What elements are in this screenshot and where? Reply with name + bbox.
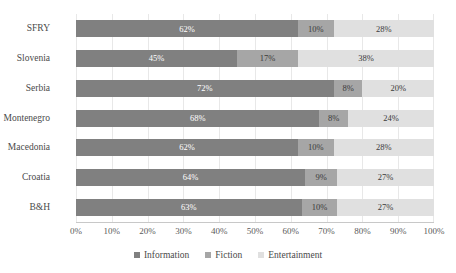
category-label: Macedonia xyxy=(0,139,50,156)
plot-area: SFRY62%10%28%Slovenia45%17%38%Serbia72%8… xyxy=(76,14,434,222)
bar-segment-information: 45% xyxy=(76,50,237,67)
bar-segment-entertainment: 27% xyxy=(337,199,434,216)
category-label: B&H xyxy=(0,199,50,216)
data-label: 10% xyxy=(308,25,324,34)
bar-segment-information: 63% xyxy=(76,199,302,216)
x-tick-label: 100% xyxy=(424,226,445,236)
data-label: 68% xyxy=(190,114,206,123)
bar-segment-information: 68% xyxy=(76,110,319,127)
data-label: 72% xyxy=(197,84,213,93)
bar-segment-information: 64% xyxy=(76,169,305,186)
bar-segment-entertainment: 28% xyxy=(334,139,434,156)
bar-segment-entertainment: 20% xyxy=(362,80,434,97)
bar-segment-information: 62% xyxy=(76,139,298,156)
data-label: 28% xyxy=(376,143,392,152)
x-axis-tick-labels: 0%10%20%30%40%50%60%70%80%90%100% xyxy=(76,226,434,240)
bar-segment-fiction: 10% xyxy=(298,139,334,156)
legend-item-fiction[interactable]: Fiction xyxy=(205,250,242,260)
category-label: Croatia xyxy=(0,169,50,186)
data-label: 8% xyxy=(328,114,339,123)
data-label: 27% xyxy=(378,173,394,182)
data-label: 45% xyxy=(149,54,165,63)
data-label: 63% xyxy=(181,203,197,212)
x-tick-label: 70% xyxy=(318,226,335,236)
data-label: 62% xyxy=(179,25,195,34)
legend-swatch-icon xyxy=(205,252,211,258)
data-label: 10% xyxy=(312,203,328,212)
bar-segment-fiction: 10% xyxy=(298,20,334,37)
legend-item-information[interactable]: Information xyxy=(134,250,189,260)
x-tick-label: 90% xyxy=(390,226,407,236)
category-label: SFRY xyxy=(0,20,50,37)
bar-segment-fiction: 17% xyxy=(237,50,298,67)
data-label: 27% xyxy=(378,203,394,212)
legend-label: Fiction xyxy=(215,250,242,260)
bar-segment-fiction: 9% xyxy=(305,169,337,186)
data-label: 9% xyxy=(316,173,327,182)
legend-label: Entertainment xyxy=(268,250,322,260)
bar-row: Montenegro68%8%24% xyxy=(76,110,434,127)
bar-segment-entertainment: 24% xyxy=(348,110,434,127)
bar-segment-information: 62% xyxy=(76,20,298,37)
x-tick-label: 20% xyxy=(139,226,156,236)
category-label: Slovenia xyxy=(0,50,50,67)
legend-swatch-icon xyxy=(134,252,140,258)
x-tick-label: 10% xyxy=(104,226,121,236)
data-label: 38% xyxy=(358,54,374,63)
legend-label: Information xyxy=(144,250,189,260)
bar-row: SFRY62%10%28% xyxy=(76,20,434,37)
x-axis-line xyxy=(76,222,434,223)
category-label: Montenegro xyxy=(0,110,50,127)
x-tick-label: 40% xyxy=(211,226,228,236)
category-label: Serbia xyxy=(0,80,50,97)
legend-item-entertainment[interactable]: Entertainment xyxy=(258,250,322,260)
x-tick-label: 80% xyxy=(354,226,371,236)
data-label: 28% xyxy=(376,25,392,34)
data-label: 8% xyxy=(342,84,353,93)
bar-row: B&H63%10%27% xyxy=(76,199,434,216)
legend-swatch-icon xyxy=(258,252,264,258)
data-label: 10% xyxy=(308,143,324,152)
bar-segment-entertainment: 27% xyxy=(337,169,434,186)
bar-segment-fiction: 8% xyxy=(319,110,348,127)
data-label: 62% xyxy=(179,143,195,152)
data-label: 24% xyxy=(383,114,399,123)
bar-segment-fiction: 10% xyxy=(302,199,338,216)
x-tick-label: 60% xyxy=(283,226,300,236)
bar-segment-fiction: 8% xyxy=(334,80,363,97)
bar-row: Croatia64%9%27% xyxy=(76,169,434,186)
data-label: 64% xyxy=(183,173,199,182)
chart-legend: InformationFictionEntertainment xyxy=(0,250,456,260)
bar-segment-information: 72% xyxy=(76,80,334,97)
bar-row: Macedonia62%10%28% xyxy=(76,139,434,156)
bar-segment-entertainment: 38% xyxy=(298,50,434,67)
x-tick-label: 50% xyxy=(247,226,264,236)
bar-segment-entertainment: 28% xyxy=(334,20,434,37)
x-tick-label: 30% xyxy=(175,226,192,236)
data-label: 20% xyxy=(390,84,406,93)
x-tick-label: 0% xyxy=(70,226,82,236)
stacked-bar-chart: SFRY62%10%28%Slovenia45%17%38%Serbia72%8… xyxy=(0,0,456,273)
bar-row: Slovenia45%17%38% xyxy=(76,50,434,67)
data-label: 17% xyxy=(260,54,276,63)
bar-row: Serbia72%8%20% xyxy=(76,80,434,97)
